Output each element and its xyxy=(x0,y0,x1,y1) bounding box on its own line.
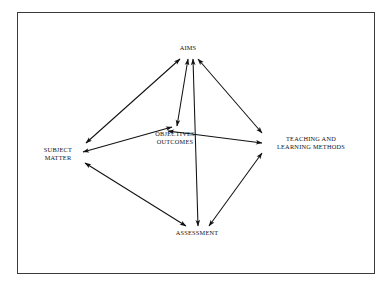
edge-subject-assessment xyxy=(85,163,186,226)
node-assessment: ASSESSMENT xyxy=(154,229,240,237)
edge-teaching-assessment xyxy=(209,153,262,226)
node-objectives-outcomes: OBJECTIVES OUTCOMES xyxy=(137,130,213,147)
edge-aims-objectives xyxy=(177,59,188,126)
edge-aims-teaching xyxy=(198,59,262,133)
node-subject-matter: SUBJECT MATTER xyxy=(23,146,93,163)
node-aims: AIMS xyxy=(158,44,218,52)
diagram-canvas: AIMS SUBJECT MATTER OBJECTIVES OUTCOMES … xyxy=(0,0,392,292)
node-teaching-and-learning-methods: TEACHING AND LEARNING METHODS xyxy=(255,135,367,152)
